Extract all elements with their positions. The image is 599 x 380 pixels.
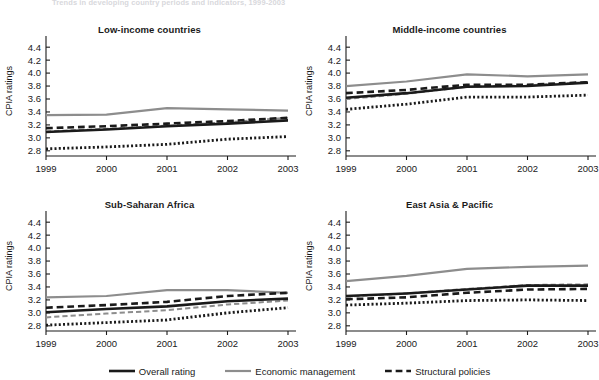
figure-suptitle: Trends in developing country periods and… bbox=[52, 0, 285, 7]
svg-text:3.0: 3.0 bbox=[328, 132, 341, 143]
series-line bbox=[346, 286, 588, 296]
subplot-grid: Low-income countries CPIA ratings 2.83.0… bbox=[0, 22, 599, 358]
svg-text:4.0: 4.0 bbox=[28, 67, 41, 78]
svg-text:3.0: 3.0 bbox=[28, 307, 41, 318]
svg-text:2001: 2001 bbox=[156, 338, 177, 349]
svg-text:3.4: 3.4 bbox=[28, 281, 41, 292]
svg-text:4.4: 4.4 bbox=[28, 217, 41, 228]
svg-text:1999: 1999 bbox=[35, 338, 56, 349]
panel-sub-saharan-africa: Sub-Saharan Africa CPIA ratings 2.83.03.… bbox=[0, 197, 299, 365]
svg-text:4.2: 4.2 bbox=[28, 55, 41, 66]
legend-item: Structural policies bbox=[385, 366, 490, 377]
svg-text:2002: 2002 bbox=[517, 338, 538, 349]
legend-label: Structural policies bbox=[415, 366, 490, 377]
legend-item: Overall rating bbox=[109, 366, 196, 377]
svg-text:3.6: 3.6 bbox=[28, 93, 41, 104]
svg-text:2002: 2002 bbox=[517, 163, 538, 174]
legend-label: Economic management bbox=[255, 366, 355, 377]
svg-text:4.4: 4.4 bbox=[328, 217, 341, 228]
svg-text:2000: 2000 bbox=[96, 338, 117, 349]
svg-text:4.2: 4.2 bbox=[28, 230, 41, 241]
svg-text:2002: 2002 bbox=[217, 338, 238, 349]
legend-label: Overall rating bbox=[139, 366, 196, 377]
svg-text:2.8: 2.8 bbox=[28, 145, 41, 156]
svg-text:2000: 2000 bbox=[396, 338, 417, 349]
svg-text:4.0: 4.0 bbox=[28, 242, 41, 253]
plot-area: 2.83.03.23.43.63.84.04.24.41999200020012… bbox=[0, 197, 299, 365]
svg-text:2001: 2001 bbox=[156, 163, 177, 174]
svg-text:2003: 2003 bbox=[577, 163, 598, 174]
svg-text:3.6: 3.6 bbox=[328, 268, 341, 279]
svg-text:3.0: 3.0 bbox=[328, 307, 341, 318]
svg-text:3.8: 3.8 bbox=[28, 80, 41, 91]
svg-text:3.4: 3.4 bbox=[328, 106, 341, 117]
svg-text:2001: 2001 bbox=[456, 163, 477, 174]
svg-text:2.8: 2.8 bbox=[328, 145, 341, 156]
svg-text:3.2: 3.2 bbox=[328, 294, 341, 305]
legend-swatch-solid bbox=[225, 366, 251, 376]
panel-middle-income: Middle-income countries CPIA ratings 2.8… bbox=[300, 22, 599, 190]
panel-low-income: Low-income countries CPIA ratings 2.83.0… bbox=[0, 22, 299, 190]
plot-area: 2.83.03.23.43.63.84.04.24.41999200020012… bbox=[300, 197, 599, 365]
series-line bbox=[346, 95, 588, 109]
svg-text:2003: 2003 bbox=[277, 338, 298, 349]
svg-text:4.0: 4.0 bbox=[328, 242, 341, 253]
svg-text:3.6: 3.6 bbox=[28, 268, 41, 279]
svg-text:3.8: 3.8 bbox=[28, 255, 41, 266]
svg-text:3.0: 3.0 bbox=[28, 132, 41, 143]
svg-text:2002: 2002 bbox=[217, 163, 238, 174]
svg-text:3.8: 3.8 bbox=[328, 255, 341, 266]
panel-east-asia-pacific: East Asia & Pacific CPIA ratings 2.83.03… bbox=[300, 197, 599, 365]
svg-text:3.2: 3.2 bbox=[328, 119, 341, 130]
series-line bbox=[46, 108, 288, 115]
svg-text:1999: 1999 bbox=[35, 163, 56, 174]
legend-item: Economic management bbox=[225, 366, 355, 377]
svg-text:4.4: 4.4 bbox=[328, 42, 341, 53]
svg-text:3.4: 3.4 bbox=[328, 281, 341, 292]
svg-text:3.8: 3.8 bbox=[328, 80, 341, 91]
series-line bbox=[46, 137, 288, 149]
svg-text:2000: 2000 bbox=[96, 163, 117, 174]
svg-text:2003: 2003 bbox=[577, 338, 598, 349]
svg-text:3.2: 3.2 bbox=[28, 119, 41, 130]
svg-text:4.0: 4.0 bbox=[328, 67, 341, 78]
series-line bbox=[346, 300, 588, 305]
svg-text:3.4: 3.4 bbox=[28, 106, 41, 117]
plot-area: 2.83.03.23.43.63.84.04.24.41999200020012… bbox=[0, 22, 299, 190]
svg-text:3.2: 3.2 bbox=[28, 294, 41, 305]
svg-text:1999: 1999 bbox=[335, 338, 356, 349]
svg-text:1999: 1999 bbox=[335, 163, 356, 174]
svg-text:2003: 2003 bbox=[277, 163, 298, 174]
svg-text:3.6: 3.6 bbox=[328, 93, 341, 104]
svg-text:4.2: 4.2 bbox=[328, 230, 341, 241]
svg-text:2.8: 2.8 bbox=[28, 320, 41, 331]
chart-legend: Overall ratingEconomic managementStructu… bbox=[0, 362, 599, 380]
svg-text:2000: 2000 bbox=[396, 163, 417, 174]
svg-text:2001: 2001 bbox=[456, 338, 477, 349]
svg-text:4.2: 4.2 bbox=[328, 55, 341, 66]
plot-area: 2.83.03.23.43.63.84.04.24.41999200020012… bbox=[300, 22, 599, 190]
svg-text:2.8: 2.8 bbox=[328, 320, 341, 331]
legend-swatch-dashed bbox=[385, 366, 411, 376]
series-line bbox=[346, 266, 588, 282]
svg-text:4.4: 4.4 bbox=[28, 42, 41, 53]
legend-swatch-solid bbox=[109, 366, 135, 376]
